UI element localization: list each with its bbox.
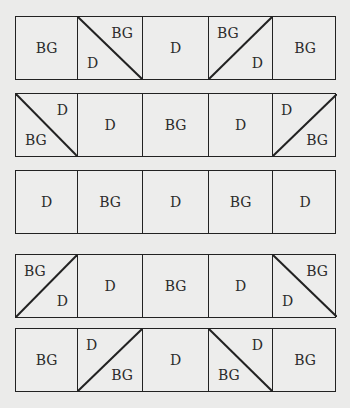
cell-label-upper: BG xyxy=(217,26,239,40)
solid-square-cell: D xyxy=(78,94,143,156)
half-square-triangle-cell: DBG xyxy=(78,329,143,391)
solid-square-cell: D xyxy=(143,171,209,233)
block-row-4: BGDDBGDBGD xyxy=(15,254,336,318)
half-square-triangle-cell: DBG xyxy=(209,329,273,391)
solid-square-cell: BG xyxy=(143,255,209,317)
cell-label: D xyxy=(299,195,310,209)
half-square-triangle-cell: DBG xyxy=(273,94,337,156)
cell-label-lower: BG xyxy=(25,133,47,147)
cell-label-upper: BG xyxy=(24,264,46,278)
block-row-3: DBGDBGD xyxy=(15,170,336,234)
cell-label-upper: D xyxy=(86,338,97,352)
cell-label-upper: D xyxy=(281,103,292,117)
solid-square-cell: D xyxy=(16,171,78,233)
cell-label-upper: BG xyxy=(111,26,133,40)
cell-label: D xyxy=(170,195,181,209)
cell-label: BG xyxy=(165,279,187,293)
cell-label: BG xyxy=(230,195,252,209)
cell-label-lower: D xyxy=(87,56,98,70)
cell-label-upper: D xyxy=(252,338,263,352)
solid-square-cell: BG xyxy=(16,329,78,391)
cell-label-lower: D xyxy=(252,56,263,70)
cell-label: D xyxy=(170,41,181,55)
cell-label-upper: BG xyxy=(306,264,328,278)
solid-square-cell: BG xyxy=(16,17,78,79)
cell-label-lower: D xyxy=(282,294,293,308)
solid-square-cell: D xyxy=(209,94,273,156)
half-square-triangle-cell: BGD xyxy=(78,17,143,79)
cell-label: D xyxy=(41,195,52,209)
block-row-2: DBGDBGDDBG xyxy=(15,93,336,157)
half-square-triangle-cell: BGD xyxy=(273,255,337,317)
solid-square-cell: BG xyxy=(143,94,209,156)
block-row-5: BGDBGDDBGBG xyxy=(15,328,336,392)
half-square-triangle-cell: BGD xyxy=(16,255,78,317)
cell-label: D xyxy=(104,118,115,132)
cell-label-lower: D xyxy=(57,294,68,308)
cell-label: D xyxy=(235,118,246,132)
cell-label-lower: BG xyxy=(306,133,328,147)
half-square-triangle-cell: DBG xyxy=(16,94,78,156)
cell-label-lower: BG xyxy=(111,368,133,382)
cell-label: BG xyxy=(99,195,121,209)
solid-square-cell: BG xyxy=(273,329,337,391)
solid-square-cell: D xyxy=(143,17,209,79)
cell-label: BG xyxy=(294,41,316,55)
solid-square-cell: D xyxy=(78,255,143,317)
solid-square-cell: BG xyxy=(209,171,273,233)
cell-label: BG xyxy=(36,353,58,367)
solid-square-cell: D xyxy=(273,171,337,233)
half-square-triangle-cell: BGD xyxy=(209,17,273,79)
solid-square-cell: D xyxy=(143,329,209,391)
cell-label: D xyxy=(235,279,246,293)
cell-label: BG xyxy=(36,41,58,55)
cell-label: D xyxy=(170,353,181,367)
cell-label-lower: BG xyxy=(218,368,240,382)
cell-label-upper: D xyxy=(57,103,68,117)
solid-square-cell: BG xyxy=(273,17,337,79)
cell-label: BG xyxy=(294,353,316,367)
cell-label: D xyxy=(104,279,115,293)
solid-square-cell: BG xyxy=(78,171,143,233)
cell-label: BG xyxy=(165,118,187,132)
block-row-1: BGBGDDBGDBG xyxy=(15,16,336,80)
solid-square-cell: D xyxy=(209,255,273,317)
